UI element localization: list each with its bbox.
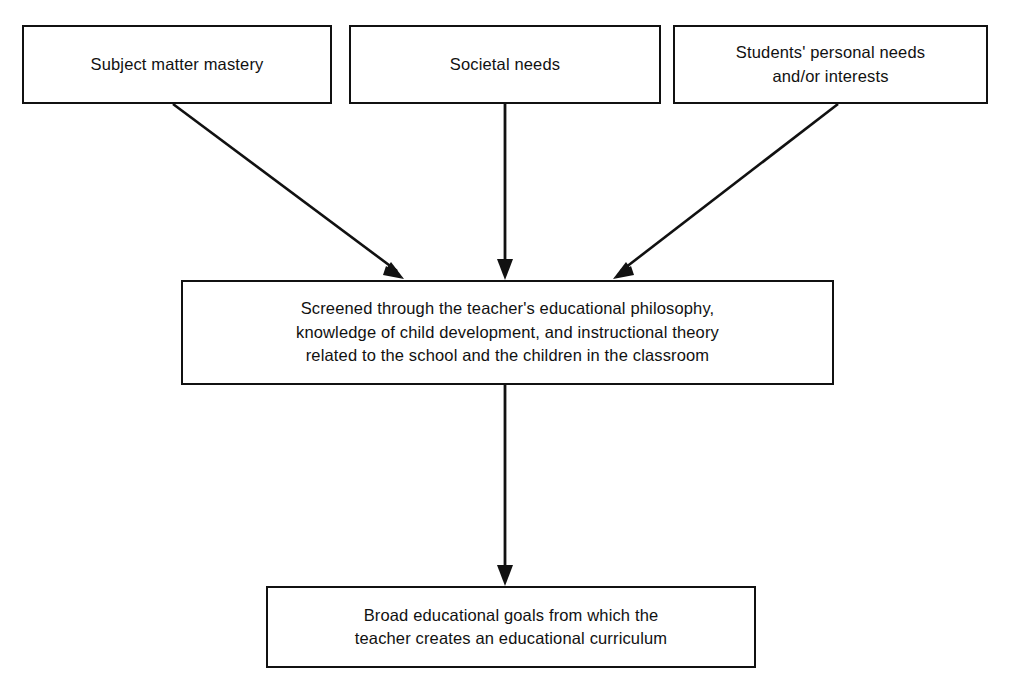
node-subject-matter-mastery: Subject matter mastery xyxy=(22,25,332,104)
node-broad-goals: Broad educational goals from which the t… xyxy=(266,586,756,668)
node-label: Screened through the teacher's education… xyxy=(296,297,719,367)
connector-screen-to-broad-goals xyxy=(497,385,513,586)
node-label: Students' personal needs and/or interest… xyxy=(736,41,925,88)
node-label: Broad educational goals from which the t… xyxy=(355,604,667,651)
node-label: Subject matter mastery xyxy=(91,53,264,76)
connector-students-needs-to-screen xyxy=(613,104,838,279)
node-label: Societal needs xyxy=(450,53,560,76)
node-students-personal-needs: Students' personal needs and/or interest… xyxy=(673,25,988,104)
connector-societal-needs-to-screen xyxy=(497,104,513,280)
node-screened-philosophy: Screened through the teacher's education… xyxy=(181,280,834,385)
diagram-canvas: Subject matter mastery Societal needs St… xyxy=(0,0,1009,696)
connector-subject-matter-to-screen xyxy=(173,104,404,279)
node-societal-needs: Societal needs xyxy=(349,25,661,104)
